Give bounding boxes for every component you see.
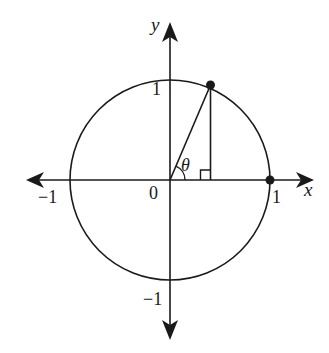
origin-label: 0 bbox=[149, 183, 158, 203]
point-on-circle bbox=[206, 81, 215, 90]
point-1-0 bbox=[266, 176, 275, 185]
right-angle-marker bbox=[201, 170, 211, 180]
y-axis-label: y bbox=[149, 14, 160, 35]
radius-line bbox=[170, 85, 211, 180]
x-axis-label: x bbox=[303, 179, 313, 200]
theta-label: θ bbox=[181, 155, 190, 175]
unit-circle-diagram: y x 0 1 −1 −1 1 θ bbox=[0, 0, 329, 353]
y-tick-neg-label: −1 bbox=[143, 289, 162, 309]
y-tick-pos-label: 1 bbox=[152, 79, 161, 99]
x-tick-neg-label: −1 bbox=[38, 187, 57, 207]
x-tick-pos-label: 1 bbox=[272, 187, 281, 207]
